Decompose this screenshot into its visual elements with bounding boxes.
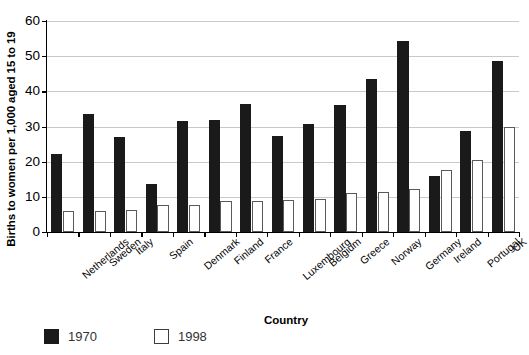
bar-germany-1970 <box>397 41 408 232</box>
bar-finland-1970 <box>209 120 220 232</box>
bar-ireland-1970 <box>429 176 440 232</box>
x-tick-label-norway: Norway <box>389 236 423 267</box>
legend-label-1998: 1998 <box>178 330 207 343</box>
bar-greece-1970 <box>334 105 345 232</box>
legend-item-1970[interactable]: 1970 <box>44 329 97 344</box>
bar-germany-1998 <box>409 189 420 232</box>
bar-luxembourg-1998 <box>283 200 294 232</box>
bar-france-1998 <box>252 201 263 232</box>
bar-denmark-1970 <box>177 121 188 232</box>
bar-greece-1998 <box>346 193 357 232</box>
bar-italy-1998 <box>126 210 137 232</box>
bar-netherlands-1970 <box>51 154 62 232</box>
bar-uk-1998 <box>504 127 515 233</box>
y-tick-label: 60 <box>10 14 40 28</box>
bar-ireland-1998 <box>441 170 452 232</box>
x-tick-label-spain: Spain <box>167 236 194 261</box>
bar-sweden-1998 <box>95 211 106 232</box>
legend-swatch-1970 <box>44 329 59 344</box>
bar-sweden-1970 <box>83 114 94 232</box>
gridline <box>47 91 519 92</box>
legend-label-1970: 1970 <box>68 330 97 343</box>
bar-spain-1970 <box>146 184 157 232</box>
y-tick-label: 30 <box>10 120 40 134</box>
y-tick-label: 40 <box>10 85 40 99</box>
y-tick-label: 20 <box>10 155 40 169</box>
bar-portugal-1998 <box>472 160 483 232</box>
bar-france-1970 <box>240 104 251 232</box>
legend-swatch-1998 <box>154 329 169 344</box>
bar-italy-1970 <box>114 137 125 232</box>
bar-belgium-1998 <box>315 199 326 232</box>
x-tick-label-greece: Greece <box>358 236 391 266</box>
bar-belgium-1970 <box>303 124 314 232</box>
bar-norway-1970 <box>366 79 377 232</box>
bar-denmark-1998 <box>189 205 200 232</box>
bar-luxembourg-1970 <box>272 136 283 232</box>
x-axis-title: Country <box>0 314 524 326</box>
gridline <box>47 56 519 57</box>
bar-portugal-1970 <box>460 131 471 232</box>
y-tick-label: 50 <box>10 49 40 63</box>
bar-norway-1998 <box>378 192 389 232</box>
plot-area: 0102030405060 NetherlandsSwedenItalySpai… <box>47 21 519 232</box>
gridline <box>47 127 519 128</box>
y-tick-label: 10 <box>10 190 40 204</box>
gridline <box>47 21 519 22</box>
y-axis-line <box>46 20 47 233</box>
bar-spain-1998 <box>157 205 168 232</box>
x-tick-label-france: France <box>263 236 295 265</box>
y-tick-label: 0 <box>10 225 40 239</box>
bar-uk-1970 <box>492 61 503 232</box>
legend-item-1998[interactable]: 1998 <box>154 329 207 344</box>
x-axis-line <box>46 232 519 233</box>
bar-netherlands-1998 <box>63 211 74 232</box>
chart-legend: 19701998 <box>44 326 207 346</box>
bar-finland-1998 <box>220 201 231 232</box>
